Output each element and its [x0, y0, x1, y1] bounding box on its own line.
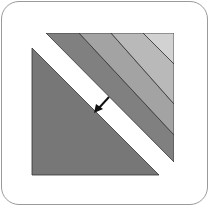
diagonal-offset-icon	[0, 0, 213, 211]
